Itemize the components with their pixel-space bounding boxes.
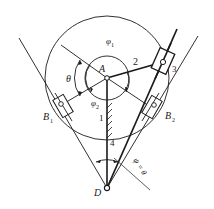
pivot-a [105, 76, 110, 81]
slider-pin-b2 [152, 103, 157, 108]
theta-arc [74, 60, 80, 96]
label-b1-sub: 1 [50, 118, 53, 124]
label-pivot-d: D [93, 187, 102, 198]
mechanism-diagram: A D θ φ 1 φ 2 B 1 B 2 1 2 3 4 ψ = θ [0, 0, 214, 209]
slider-pin-b1 [59, 102, 64, 107]
label-psi-theta: ψ = θ [131, 156, 148, 176]
slider-pin-3 [160, 59, 165, 64]
label-theta: θ [66, 73, 71, 84]
label-pivot-a: A [98, 63, 106, 74]
label-link-3: 3 [172, 64, 177, 74]
pivot-d [104, 185, 109, 190]
label-phi2-sub: 2 [96, 104, 99, 110]
label-link-4: 4 [110, 138, 115, 148]
label-link-1: 1 [99, 113, 104, 123]
label-b2-sub: 2 [172, 117, 175, 123]
label-b2: B [165, 110, 171, 121]
slider-block-b2 [142, 95, 162, 118]
label-link-2: 2 [133, 56, 138, 67]
label-phi1-sub: 1 [111, 42, 114, 48]
label-b1: B [43, 111, 49, 122]
